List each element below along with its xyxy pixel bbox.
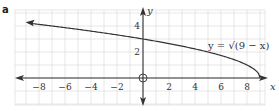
x-tick-label: 8 bbox=[244, 82, 250, 92]
y-tick-label: 4 bbox=[134, 21, 140, 31]
x-tick-label: 4 bbox=[192, 82, 198, 92]
equation-label: y = √(9 − x) bbox=[207, 40, 269, 51]
x-axis-label: x bbox=[270, 81, 276, 92]
x-tick-label: −8 bbox=[32, 82, 46, 92]
x-tick-label: 6 bbox=[218, 82, 224, 92]
y-tick-label: 2 bbox=[134, 47, 140, 57]
x-tick-label: −6 bbox=[58, 82, 72, 92]
x-tick-label: −2 bbox=[110, 82, 123, 92]
x-tick-label: 2 bbox=[166, 82, 172, 92]
y-axis-label: y bbox=[146, 5, 153, 16]
x-tick-label: −4 bbox=[84, 82, 98, 92]
function-graph: −8−6−4−2246824xy y = √(9 − x) bbox=[0, 0, 279, 111]
